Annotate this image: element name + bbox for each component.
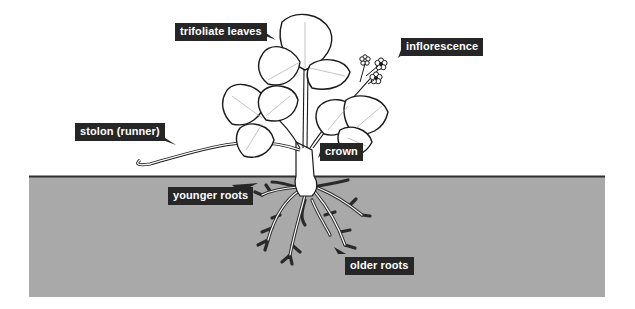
strawberry-plant-diagram xyxy=(0,0,635,309)
label-stolon: stolon (runner) xyxy=(75,123,165,141)
label-crown: crown xyxy=(320,143,363,161)
label-older-roots: older roots xyxy=(345,257,414,275)
inflorescence-flowers xyxy=(360,55,387,84)
label-trifoliate-leaves: trifoliate leaves xyxy=(175,23,267,41)
label-younger-roots: younger roots xyxy=(168,187,253,205)
label-inflorescence: inflorescence xyxy=(401,38,483,56)
stolon xyxy=(138,142,300,164)
